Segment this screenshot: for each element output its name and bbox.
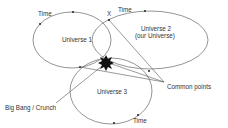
common-points-label: Common points (167, 83, 211, 91)
universe-3-label: Universe 3 (97, 88, 128, 95)
time-dot (137, 114, 139, 116)
big-bang-burst-icon (98, 55, 114, 71)
intersection-label: X (107, 10, 112, 17)
big-bang-label: Big Bang / Crunch (5, 104, 57, 112)
time-dot (144, 10, 146, 12)
time-dot (148, 70, 150, 72)
time-label: Time (133, 117, 147, 124)
time-dot (72, 11, 74, 13)
time-label: Time (118, 6, 132, 13)
time-dot (113, 122, 115, 124)
pointer-line (56, 66, 102, 103)
time-dot (39, 23, 41, 25)
time-label: Time (38, 10, 52, 17)
universe-2-label: Universe 2 (141, 25, 172, 32)
universe-1-label: Universe 1 (62, 36, 93, 43)
multiverse-diagram: Time X Time Universe 1 Universe 2 (our U… (0, 0, 228, 128)
universe-2-sublabel: (our Universe) (135, 32, 175, 40)
